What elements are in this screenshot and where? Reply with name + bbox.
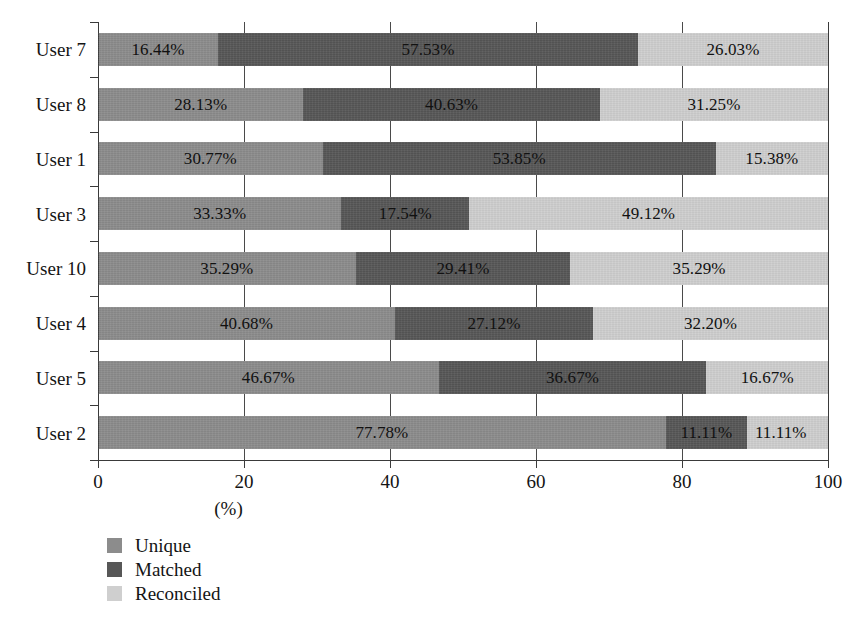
y-axis-tick [90, 22, 98, 23]
bar-segment-value-label: 40.68% [220, 315, 273, 332]
bar-segment-reconciled: 26.03% [638, 33, 828, 66]
plot-area: 16.44%57.53%26.03%28.13%40.63%31.25%30.7… [98, 22, 828, 460]
bar-segment-matched: 27.12% [395, 307, 593, 340]
y-axis-tick [90, 460, 98, 461]
bar-segment-value-label: 77.78% [355, 424, 408, 441]
bar-segment-unique: 40.68% [98, 307, 395, 340]
category-label-user-1: User 1 [0, 150, 86, 169]
y-axis-line [98, 22, 99, 461]
bar-segment-reconciled: 11.11% [747, 416, 828, 449]
bar-segment-value-label: 32.20% [684, 315, 737, 332]
y-axis-tick [90, 296, 98, 297]
bar-segment-matched: 29.41% [356, 252, 571, 285]
bar-segment-reconciled: 32.20% [593, 307, 828, 340]
category-label-user-10: User 10 [0, 259, 86, 278]
category-label-user-3: User 3 [0, 205, 86, 224]
bar-segment-value-label: 15.38% [745, 150, 798, 167]
bar-segment-value-label: 26.03% [706, 41, 759, 58]
x-axis-tick-80 [682, 460, 683, 468]
x-axis-tick-label-60: 60 [527, 472, 546, 491]
legend-label: Matched [135, 560, 201, 579]
bar-segment-value-label: 16.67% [741, 369, 794, 386]
bar-segment-value-label: 57.53% [401, 41, 454, 58]
x-axis-tick-label-80: 80 [673, 472, 692, 491]
category-label-user-2: User 2 [0, 424, 86, 443]
bar-segment-reconciled: 49.12% [469, 197, 828, 230]
bar-segment-matched: 36.67% [439, 361, 707, 394]
category-label-user-4: User 4 [0, 314, 86, 333]
x-axis-tick-label-20: 20 [235, 472, 254, 491]
chart-legend: UniqueMatchedReconciled [107, 533, 220, 605]
bar-segment-unique: 28.13% [98, 88, 303, 121]
bar-segment-reconciled: 16.67% [706, 361, 828, 394]
x-axis-tick-label-40: 40 [381, 472, 400, 491]
bar-segment-unique: 35.29% [98, 252, 356, 285]
category-label-user-8: User 8 [0, 95, 86, 114]
gridline-100 [828, 22, 829, 460]
bar-row: 28.13%40.63%31.25% [98, 88, 828, 121]
bar-segment-unique: 46.67% [98, 361, 439, 394]
bar-segment-value-label: 11.11% [680, 424, 732, 441]
bar-segment-value-label: 36.67% [546, 369, 599, 386]
bar-segment-matched: 11.11% [666, 416, 747, 449]
bar-segment-unique: 77.78% [98, 416, 666, 449]
bar-segment-value-label: 35.29% [200, 260, 253, 277]
legend-label: Unique [135, 536, 191, 555]
x-axis-tick-20 [244, 460, 245, 468]
bar-segment-value-label: 46.67% [242, 369, 295, 386]
y-axis-tick [90, 186, 98, 187]
x-axis-tick-label-0: 0 [93, 472, 103, 491]
x-axis-tick-40 [390, 460, 391, 468]
bar-segment-matched: 57.53% [218, 33, 638, 66]
category-label-user-7: User 7 [0, 40, 86, 59]
x-axis-title: (%) [0, 498, 865, 520]
y-axis-tick [90, 241, 98, 242]
bar-segment-value-label: 11.11% [755, 424, 807, 441]
bar-segment-unique: 16.44% [98, 33, 218, 66]
bar-segment-reconciled: 15.38% [716, 142, 828, 175]
bar-segment-matched: 53.85% [323, 142, 716, 175]
x-axis-tick-0 [98, 460, 99, 468]
bar-segment-value-label: 17.54% [379, 205, 432, 222]
bar-segment-value-label: 28.13% [174, 96, 227, 113]
legend-item-matched[interactable]: Matched [107, 557, 220, 581]
bar-segment-value-label: 40.63% [425, 96, 478, 113]
bar-segment-unique: 33.33% [98, 197, 341, 230]
bar-segment-reconciled: 31.25% [600, 88, 828, 121]
bar-segment-value-label: 27.12% [467, 315, 520, 332]
x-axis-tick-label-100: 100 [814, 472, 843, 491]
bar-row: 77.78%11.11%11.11% [98, 416, 828, 449]
stacked-bar-chart: 16.44%57.53%26.03%28.13%40.63%31.25%30.7… [0, 0, 865, 631]
bar-segment-matched: 17.54% [341, 197, 469, 230]
bar-segment-value-label: 29.41% [436, 260, 489, 277]
y-axis-tick [90, 132, 98, 133]
legend-item-reconciled[interactable]: Reconciled [107, 581, 220, 605]
bar-row: 30.77%53.85%15.38% [98, 142, 828, 175]
legend-item-unique[interactable]: Unique [107, 533, 220, 557]
bar-segment-matched: 40.63% [303, 88, 600, 121]
bar-row: 35.29%29.41%35.29% [98, 252, 828, 285]
x-axis-line [98, 460, 829, 461]
legend-swatch-icon [107, 538, 122, 553]
bar-row: 46.67%36.67%16.67% [98, 361, 828, 394]
bar-row: 40.68%27.12%32.20% [98, 307, 828, 340]
bar-segment-value-label: 49.12% [622, 205, 675, 222]
legend-swatch-icon [107, 586, 122, 601]
bar-segment-value-label: 33.33% [193, 205, 246, 222]
bar-segment-value-label: 30.77% [184, 150, 237, 167]
bar-segment-value-label: 31.25% [687, 96, 740, 113]
bar-row: 16.44%57.53%26.03% [98, 33, 828, 66]
bar-segment-value-label: 16.44% [131, 41, 184, 58]
legend-label: Reconciled [135, 584, 220, 603]
x-axis-tick-100 [828, 460, 829, 468]
bar-segment-reconciled: 35.29% [570, 252, 828, 285]
y-axis-tick [90, 77, 98, 78]
bar-segment-value-label: 35.29% [673, 260, 726, 277]
y-axis-tick [90, 351, 98, 352]
y-axis-tick [90, 405, 98, 406]
bar-segment-value-label: 53.85% [493, 150, 546, 167]
legend-swatch-icon [107, 562, 122, 577]
bar-row: 33.33%17.54%49.12% [98, 197, 828, 230]
bar-segment-unique: 30.77% [98, 142, 323, 175]
x-axis-title-text: (%) [214, 498, 242, 520]
